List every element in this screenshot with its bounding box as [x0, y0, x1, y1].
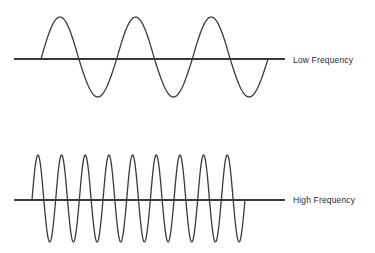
high-frequency-label: High Frequency — [293, 196, 355, 205]
waveform-figure — [0, 0, 375, 253]
low-frequency-label: Low Frequency — [293, 56, 353, 65]
